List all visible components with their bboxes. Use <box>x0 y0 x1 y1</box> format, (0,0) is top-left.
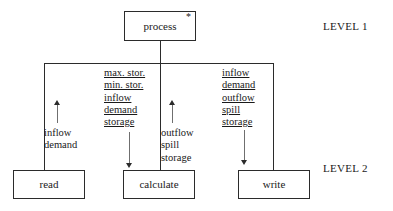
dataflow-label-item: outflow <box>222 92 255 104</box>
arrow-down-icon-process-to-calculate <box>126 163 132 168</box>
connector-bus-to-write <box>273 63 274 170</box>
dataflow-label-item: storage <box>161 152 194 164</box>
dataflow-label-item: inflow <box>104 92 145 104</box>
dataflow-label-item: demand <box>222 79 255 91</box>
asterisk-annotation-process: * <box>186 12 191 22</box>
dataflow-label-item: storage <box>222 116 255 128</box>
module-label-write: write <box>263 179 286 190</box>
structure-chart-diagram: process * read calculate write inflow de… <box>0 0 393 211</box>
dataflow-label-item: storage <box>104 116 145 128</box>
module-box-read: read <box>13 170 85 199</box>
dataflow-label-item: inflow <box>222 67 255 79</box>
dataflow-calculate-to-process-shaft <box>172 105 173 123</box>
dataflow-label-item: spill <box>161 139 194 151</box>
dataflow-process-to-write-shaft <box>244 130 245 162</box>
level-caption-2: LEVEL 2 <box>323 163 368 174</box>
dataflow-label-item: inflow <box>44 127 77 139</box>
module-label-process: process <box>144 21 177 32</box>
dataflow-label-item: min. stor. <box>104 79 145 91</box>
dataflow-read-to-process-shaft <box>57 105 58 123</box>
dataflow-labels-read-to-process: inflow demand <box>44 127 77 152</box>
level-caption-1: LEVEL 1 <box>323 21 368 32</box>
module-label-read: read <box>40 179 59 190</box>
dataflow-process-to-calculate-shaft <box>129 132 130 165</box>
dataflow-label-item: demand <box>104 104 145 116</box>
connector-bus-to-read <box>44 63 45 170</box>
arrow-up-icon-calculate-to-process <box>169 100 175 105</box>
module-box-write: write <box>238 170 310 199</box>
module-label-calculate: calculate <box>139 179 178 190</box>
dataflow-label-item: spill <box>222 104 255 116</box>
module-box-calculate: calculate <box>123 170 195 199</box>
dataflow-label-item: max. stor. <box>104 67 145 79</box>
dataflow-label-item: outflow <box>161 127 194 139</box>
arrow-down-icon-process-to-write <box>241 160 247 165</box>
dataflow-labels-process-to-write: inflow demand outflow spill storage <box>222 67 255 128</box>
dataflow-labels-process-to-calculate: max. stor. min. stor. inflow demand stor… <box>104 67 145 128</box>
connector-horizontal-bus <box>44 63 274 64</box>
module-box-process: process * <box>124 11 196 41</box>
dataflow-label-item: demand <box>44 139 77 151</box>
dataflow-labels-calculate-to-process: outflow spill storage <box>161 127 194 164</box>
arrow-up-icon-read-to-process <box>54 100 60 105</box>
connector-process-to-bus <box>160 41 161 63</box>
